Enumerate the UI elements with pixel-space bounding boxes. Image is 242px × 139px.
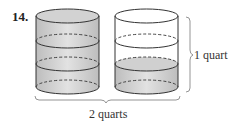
bottom-brace — [35, 96, 180, 103]
cylinders-diagram: 1 quart 2 quarts — [0, 0, 242, 139]
right-top-ellipse — [115, 9, 178, 23]
left-cylinder — [36, 9, 99, 94]
bottom-brace-label: 2 quarts — [89, 107, 128, 121]
right-brace-label: 1 quart — [194, 48, 228, 62]
left-top-ellipse — [36, 9, 99, 23]
right-cylinder — [115, 9, 178, 94]
right-brace — [186, 17, 193, 92]
